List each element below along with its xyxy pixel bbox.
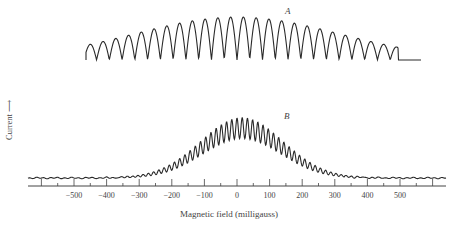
x-tick-label: −200	[164, 191, 181, 200]
x-tick-label: 500	[394, 191, 406, 200]
x-tick-label: −400	[98, 191, 115, 200]
curve-a-label: A	[285, 6, 291, 16]
x-tick-label: −300	[131, 191, 148, 200]
y-axis-label: Current ⟶	[4, 100, 14, 140]
curve-b-label: B	[284, 111, 290, 121]
x-tick-label: −500	[66, 191, 83, 200]
x-tick-label: 400	[361, 191, 373, 200]
curve-b	[28, 118, 446, 179]
x-tick-label: 0	[235, 191, 239, 200]
x-axis	[28, 179, 446, 186]
x-tick-label: 200	[296, 191, 308, 200]
x-axis-label: Magnetic field (milligauss)	[0, 209, 458, 219]
x-tick-label: 100	[264, 191, 276, 200]
x-tick-label: 300	[329, 191, 341, 200]
x-tick-label: −100	[196, 191, 213, 200]
curve-a	[86, 17, 421, 60]
